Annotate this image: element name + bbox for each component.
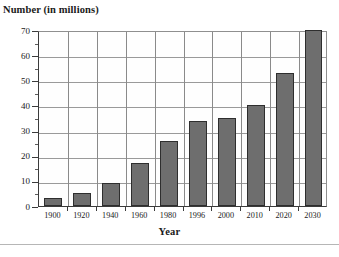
x-tick-label: 1920 [67, 211, 96, 220]
y-tick-label: 30 [4, 127, 30, 136]
y-tick-label: 10 [4, 177, 30, 186]
x-tick-label: 1980 [154, 211, 183, 220]
y-minor-tick-mark [35, 44, 39, 45]
x-tick-mark [298, 207, 299, 211]
bar [102, 183, 120, 206]
gridline-vertical [97, 32, 98, 206]
y-tick-mark [32, 157, 38, 158]
x-tick-label: 2030 [298, 211, 327, 220]
y-tick-mark [32, 56, 38, 57]
bar [305, 30, 323, 206]
y-minor-tick-mark [35, 169, 39, 170]
y-axis-title: Number (in millions) [3, 3, 99, 16]
x-tick-mark [183, 207, 184, 211]
y-tick-mark [32, 132, 38, 133]
x-tick-label: 2000 [211, 211, 240, 220]
bar [189, 121, 207, 206]
bar [131, 163, 149, 206]
y-tick-label: 20 [4, 152, 30, 161]
y-tick-label: 60 [4, 52, 30, 61]
x-tick-mark [67, 207, 68, 211]
y-tick-mark [32, 81, 38, 82]
gridline-vertical [299, 32, 300, 206]
gridline-vertical [126, 32, 127, 206]
gridline-vertical [68, 32, 69, 206]
y-tick-label: 70 [4, 27, 30, 36]
y-minor-tick-mark [35, 194, 39, 195]
x-tick-label: 2020 [269, 211, 298, 220]
y-minor-tick-mark [35, 119, 39, 120]
x-axis-title: Year [0, 226, 339, 237]
x-tick-mark [125, 207, 126, 211]
x-tick-label: 1996 [183, 211, 212, 220]
x-tick-mark [269, 207, 270, 211]
gridline-vertical [155, 32, 156, 206]
y-tick-mark [32, 31, 38, 32]
y-minor-tick-mark [35, 144, 39, 145]
bar-chart-figure: Number (in millions) 010203040506070 190… [0, 0, 339, 257]
y-minor-tick-mark [35, 94, 39, 95]
bar [218, 118, 236, 206]
gridline-vertical [212, 32, 213, 206]
bar [247, 105, 265, 206]
plot-area [38, 31, 327, 207]
footer-divider [0, 244, 339, 245]
x-tick-mark [240, 207, 241, 211]
x-tick-label: 1940 [96, 211, 125, 220]
y-tick-label: 0 [4, 203, 30, 212]
gridline-vertical [270, 32, 271, 206]
x-tick-label: 2010 [240, 211, 269, 220]
gridline-vertical [241, 32, 242, 206]
x-tick-mark [211, 207, 212, 211]
x-tick-mark [154, 207, 155, 211]
y-tick-label: 50 [4, 77, 30, 86]
bar [276, 73, 294, 206]
y-tick-label: 40 [4, 102, 30, 111]
x-tick-label: 1960 [125, 211, 154, 220]
x-tick-label: 1900 [38, 211, 67, 220]
gridline-vertical [184, 32, 185, 206]
y-tick-mark [32, 207, 38, 208]
y-tick-mark [32, 106, 38, 107]
bar [44, 198, 62, 206]
y-tick-mark [32, 182, 38, 183]
bar [73, 193, 91, 206]
y-minor-tick-mark [35, 69, 39, 70]
gridline-horizontal [39, 57, 326, 58]
x-tick-mark [96, 207, 97, 211]
bar [160, 141, 178, 206]
